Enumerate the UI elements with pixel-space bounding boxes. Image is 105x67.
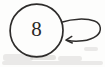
scan-smudge-right	[58, 56, 82, 61]
state-node-label: 8	[31, 17, 42, 41]
state-diagram-svg: 8	[0, 0, 105, 67]
diagram-canvas: 8	[0, 0, 105, 67]
scan-smudge-edge	[2, 61, 103, 65]
scan-smudge-corner	[84, 47, 98, 51]
